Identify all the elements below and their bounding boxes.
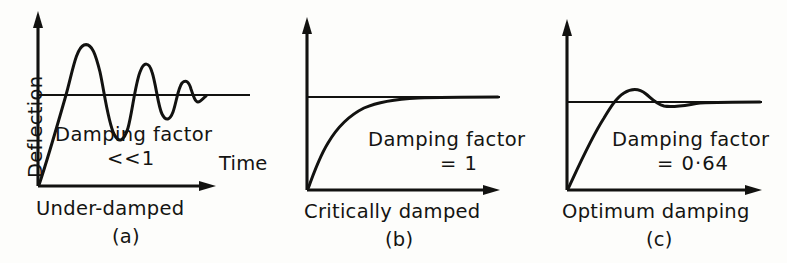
annotation-damping-value-a: <<1 xyxy=(107,147,155,170)
y-axis-arrow-a xyxy=(33,11,43,28)
subcaption-b: (b) xyxy=(385,228,413,251)
x-axis-arrow-b xyxy=(483,185,500,195)
annotation-damping-factor-a: Damping factor xyxy=(55,123,212,146)
caption-b: Critically damped xyxy=(304,200,481,223)
subcaption-a: (a) xyxy=(112,225,140,248)
subcaption-c: (c) xyxy=(646,228,673,251)
damping-response-figure: Deflection Time Damping factor <<1 Under… xyxy=(0,0,787,263)
y-axis-arrow-c xyxy=(562,19,572,36)
annotation-damping-factor-b: Damping factor xyxy=(368,128,525,151)
annotation-damping-factor-c: Damping factor xyxy=(612,128,769,151)
y-axis-arrow-b xyxy=(302,17,312,34)
x-axis-arrow-a xyxy=(199,181,216,191)
x-axis-arrow-c xyxy=(745,185,762,195)
panel-critically-damped: Damping factor = 1 Critically damped (b) xyxy=(262,0,524,263)
caption-a: Under-damped xyxy=(36,197,185,220)
annotation-damping-value-b: = 1 xyxy=(440,152,478,175)
panel-under-damped: Deflection Time Damping factor <<1 Under… xyxy=(0,0,262,263)
panel-optimum-damping: Damping factor = 0·64 Optimum damping (c… xyxy=(524,0,786,263)
y-axis-label-a: Deflection xyxy=(24,76,47,178)
annotation-damping-value-c: = 0·64 xyxy=(657,152,729,175)
caption-c: Optimum damping xyxy=(562,200,750,223)
x-axis-label-a: Time xyxy=(219,152,268,175)
